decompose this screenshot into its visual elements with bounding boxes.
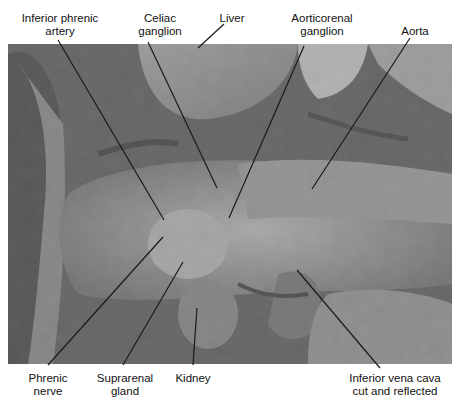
label-aorta: Aorta xyxy=(390,25,440,38)
label-inferior-phrenic-artery: Inferior phrenic artery xyxy=(10,12,110,38)
label-line: Liver xyxy=(212,12,252,25)
label-line: Suprarenal xyxy=(90,372,160,385)
label-line: nerve xyxy=(18,385,78,398)
label-line: ganglion xyxy=(282,25,362,38)
label-suprarenal-gland: Suprarenal gland xyxy=(90,372,160,398)
label-phrenic-nerve: Phrenic nerve xyxy=(18,372,78,398)
label-inferior-vena-cava: Inferior vena cava cut and reflected xyxy=(335,372,455,398)
label-celiac-ganglion: Celiac ganglion xyxy=(128,12,192,38)
label-line: Aorta xyxy=(390,25,440,38)
label-line: gland xyxy=(90,385,160,398)
dissection-photo xyxy=(8,44,452,364)
label-line: Kidney xyxy=(168,372,218,385)
label-aorticorenal-ganglion: Aorticorenal ganglion xyxy=(282,12,362,38)
label-liver: Liver xyxy=(212,12,252,25)
label-line: ganglion xyxy=(128,25,192,38)
label-line: artery xyxy=(10,25,110,38)
label-line: Inferior phrenic xyxy=(10,12,110,25)
label-line: Inferior vena cava xyxy=(335,372,455,385)
photo-illustration xyxy=(8,44,452,364)
label-kidney: Kidney xyxy=(168,372,218,385)
label-line: Aorticorenal xyxy=(282,12,362,25)
label-line: Celiac xyxy=(128,12,192,25)
label-line: Phrenic xyxy=(18,372,78,385)
label-line: cut and reflected xyxy=(335,385,455,398)
